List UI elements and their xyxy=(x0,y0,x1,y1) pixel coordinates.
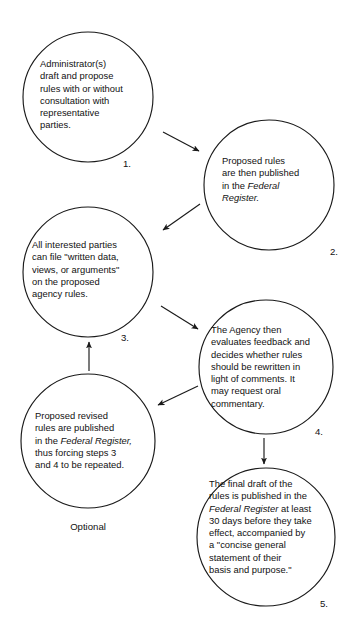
node-1-number: 1. xyxy=(123,158,131,169)
node-5-text: The final draft of therules is published… xyxy=(209,478,333,576)
node-2-text: Proposed rulesare then publishedin the F… xyxy=(222,155,322,204)
node-optional-text: Proposed revisedrules are publishedin th… xyxy=(35,410,149,471)
node-5-number: 5. xyxy=(320,598,328,609)
edge-1-2-arrow xyxy=(163,132,199,151)
edge-4-optional-arrow xyxy=(158,386,198,405)
node-3-text: All interested partiescan file "written … xyxy=(32,239,148,300)
node-4-text: The Agency thenevaluates feedback anddec… xyxy=(211,324,329,410)
flowchart-canvas: Administrator(s)draft and proposerules w… xyxy=(0,0,356,623)
node-4-number: 4. xyxy=(315,426,323,437)
edge-2-3-arrow xyxy=(163,204,200,230)
node-1-text: Administrator(s)draft and proposerules w… xyxy=(40,58,144,132)
node-2-number: 2. xyxy=(330,246,338,257)
optional-label: Optional xyxy=(28,521,148,532)
edge-3-4-arrow xyxy=(161,306,198,329)
node-3-number: 3. xyxy=(121,332,129,343)
